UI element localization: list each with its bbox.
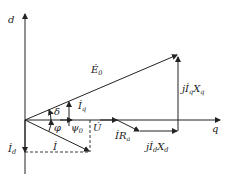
delta-label: δ: [54, 106, 60, 117]
psi0-label: ψ0: [71, 122, 83, 135]
phasor-diagram: d q Ė0 jİqXq U̇ İ İd İq İRa jİdXd δ φ ψ0: [0, 0, 230, 174]
i-label: İ: [52, 141, 58, 152]
q-axis-label: q: [212, 123, 218, 134]
ira-label: İRa: [114, 130, 130, 143]
e0-label: Ė0: [90, 64, 102, 77]
d-axis-label: d: [8, 14, 14, 25]
phi-label: φ: [54, 122, 61, 133]
jidxd-label: jİdXd: [144, 141, 169, 154]
jiqxq-label: jİqXq: [180, 83, 205, 96]
phi-arc: [49, 120, 51, 131]
delta-arc: [49, 110, 51, 120]
u-label: U̇: [93, 122, 102, 133]
id-label: İd: [7, 143, 16, 156]
e0-phasor: [25, 55, 177, 120]
iq-label: İq: [77, 100, 86, 113]
